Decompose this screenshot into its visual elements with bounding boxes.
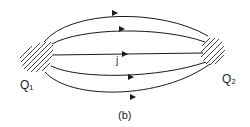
field-diagram: [0, 0, 250, 127]
charge-q1-label: Q₁: [20, 78, 33, 92]
left-electrode-hatch: [20, 42, 53, 72]
charge-q2-label: Q₂: [222, 72, 236, 86]
figure-caption: (b): [118, 109, 131, 121]
current-label: j: [116, 55, 118, 66]
